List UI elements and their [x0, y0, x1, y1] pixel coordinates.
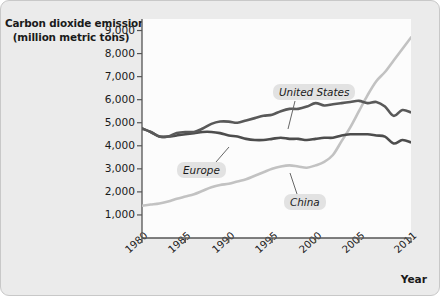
series-line-china [142, 37, 411, 205]
series-label-united-states: United States [273, 84, 355, 100]
chart-svg [1, 1, 440, 296]
axes [137, 19, 411, 243]
series-label-china: China [284, 194, 326, 210]
series-lines [142, 37, 411, 205]
series-line-europe [142, 129, 411, 144]
series-label-europe: Europe [177, 162, 226, 178]
series-line-united-states [142, 101, 411, 137]
callout-leader-lines [216, 101, 297, 194]
chart-figure: Carbon dioxide emissions (million metric… [0, 0, 440, 296]
x-axis-title: Year [401, 273, 427, 285]
